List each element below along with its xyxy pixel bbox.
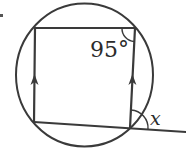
cyclic-quadrilateral-diagram: 95° x xyxy=(0,0,186,157)
bullet-mark xyxy=(0,14,3,17)
angle-label-95: 95° xyxy=(90,37,129,62)
angle-label-x: x xyxy=(150,107,161,129)
side-bottom-extended xyxy=(34,122,186,132)
